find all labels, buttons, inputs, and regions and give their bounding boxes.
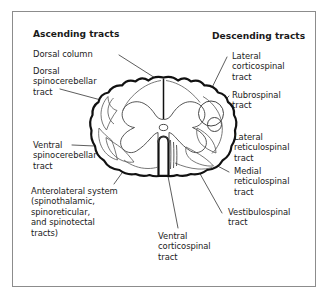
label-anterolateral-system: Anterolateral system (spinothalamic, spi… [31,186,118,238]
ascending-tracts-header: Ascending tracts [33,29,119,39]
cord-outline-group [90,77,236,176]
label-vestibulospinal-tract: Vestibulospinal tract [228,207,290,228]
label-rubrospinal-tract: Rubrospinal tract [232,90,281,111]
label-medial-reticulospinal-tract: Medial reticulospinal tract [234,166,289,197]
label-ventral-spinocerebellar-tract: Ventral spinocerebellar tract [33,140,97,171]
spinal-cord-tract-figure: Ascending tracts Dorsal column Dorsal sp… [0,0,330,299]
label-dorsal-column: Dorsal column [33,49,93,59]
label-dorsal-spinocerebellar-tract: Dorsal spinocerebellar tract [33,66,97,97]
label-ventral-corticospinal-tract: Ventral corticospinal tract [158,231,211,262]
leader-ventral-corticospinal [167,171,178,228]
descending-tracts-header: Descending tracts [212,31,305,41]
ventral-median-fissure [159,137,169,176]
central-canal [159,124,167,130]
label-lateral-reticulospinal-tract: Lateral reticulospinal tract [234,132,289,163]
label-lateral-corticospinal-tract: Lateral corticospinal tract [232,51,285,82]
